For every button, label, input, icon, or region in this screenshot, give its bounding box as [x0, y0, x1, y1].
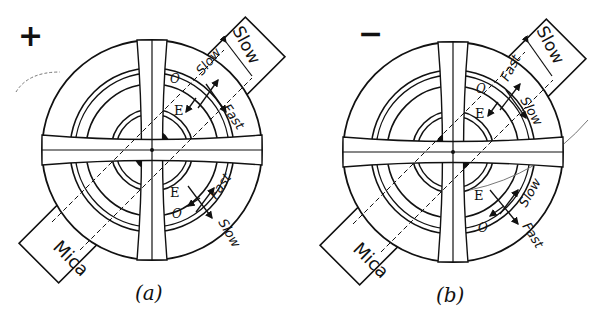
caption-a: (a)	[135, 281, 163, 305]
e-ray-label-a-upper: E	[174, 103, 184, 118]
o-ray-label-b-upper: O	[476, 82, 486, 96]
o-ray-label-a-lower: O	[172, 207, 182, 221]
caption-b: (b)	[436, 283, 464, 307]
e-ray-label-b-lower: E	[474, 188, 484, 203]
e-ray-label-a-lower: E	[170, 185, 180, 200]
o-ray-label-a-upper: O	[170, 72, 180, 86]
negative-sign: −	[358, 16, 383, 51]
interference-figure-diagram: + Mica Slow	[0, 0, 601, 313]
panel-a: + Mica Slow	[16, 17, 285, 305]
o-ray-label-b-lower: O	[478, 221, 488, 235]
positive-sign: +	[18, 18, 43, 53]
panel-b: − Mica Slow Fast Slow	[320, 16, 588, 307]
e-ray-label-b-upper: E	[475, 106, 485, 121]
stray-arc	[16, 72, 60, 92]
